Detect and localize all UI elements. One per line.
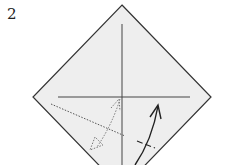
origami-diagram [0, 0, 225, 165]
